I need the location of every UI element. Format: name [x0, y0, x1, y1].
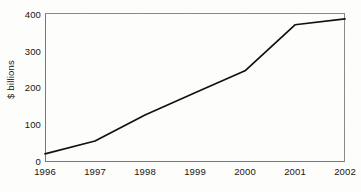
x-tick-label: 1996	[34, 166, 56, 177]
series-line	[45, 19, 345, 154]
x-tick-label: 1999	[184, 166, 206, 177]
y-tick-label: 400	[3, 10, 41, 20]
y-axis-tick-labels: 4003002001000	[0, 0, 41, 192]
line-chart-figure: $ billions 4003002001000 199619971998199…	[0, 0, 361, 192]
y-tick-label: 200	[3, 83, 41, 93]
x-axis-tick-labels: 1996199719981999200020012002	[0, 166, 361, 182]
x-tick-label: 1997	[84, 166, 106, 177]
series-line-layer	[45, 13, 345, 162]
y-tick-label: 100	[3, 120, 41, 130]
x-tick-label: 2000	[234, 166, 256, 177]
x-tick-label: 2002	[334, 166, 356, 177]
x-tick-label: 2001	[284, 166, 306, 177]
x-tick-label: 1998	[134, 166, 156, 177]
y-tick-label: 300	[3, 47, 41, 57]
